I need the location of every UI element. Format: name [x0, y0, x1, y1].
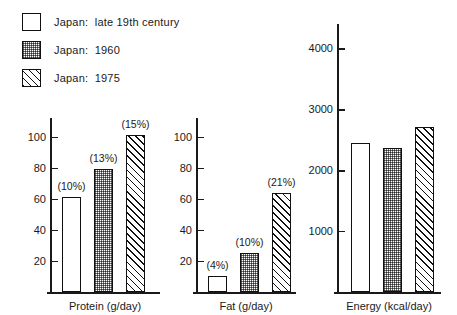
- y-axis-tick-label: 4000: [295, 42, 333, 54]
- y-axis-line: [337, 24, 339, 294]
- y-axis-tick-label: 3000: [295, 103, 333, 115]
- bar: [415, 127, 434, 292]
- y-axis-tick-label: 2000: [295, 164, 333, 176]
- y-axis-tick: [339, 170, 345, 171]
- y-axis-tick: [339, 231, 345, 232]
- chart-panel-energy: 1000200030004000Energy (kcal/day): [0, 0, 457, 315]
- y-axis-tick-label: 1000: [295, 225, 333, 237]
- bar: [351, 143, 370, 292]
- y-axis-tick: [339, 48, 345, 49]
- x-axis-line: [334, 292, 441, 294]
- y-axis-tick: [339, 109, 345, 110]
- x-axis-title: Energy (kcal/day): [346, 300, 432, 312]
- bar: [383, 148, 402, 292]
